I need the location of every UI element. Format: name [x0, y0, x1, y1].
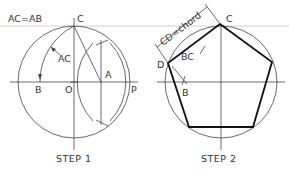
- step2-extension-c: [205, 4, 220, 24]
- step2-label-bc: BC: [181, 51, 194, 62]
- step1-label-a: A: [105, 69, 112, 80]
- step1-label-o: O: [65, 84, 72, 95]
- step1-label-p: P: [131, 84, 137, 95]
- step1-label-c: C: [77, 13, 84, 24]
- step2-label-c: C: [226, 13, 233, 24]
- step1-label-ac: AC: [58, 53, 71, 64]
- pentagon-construction-diagram: AC=AB C AC A B O P STEP 1 CD=chord C BC …: [0, 0, 289, 176]
- step2-panel: CD=chord C BC D B STEP 2: [155, 4, 285, 164]
- step1-tick-bottom: [96, 120, 108, 126]
- step2-caption: STEP 2: [201, 153, 237, 164]
- scan-band: [0, 25, 289, 27]
- step1-label-b: B: [35, 84, 42, 95]
- step1-tick-top: [96, 40, 108, 45]
- step1-caption: STEP 1: [56, 153, 92, 164]
- step2-pentagon: [168, 24, 272, 127]
- step2-label-b: B: [182, 87, 189, 98]
- step1-equation-label: AC=AB: [8, 13, 42, 24]
- step2-label-d: D: [157, 59, 164, 70]
- step2-bc-leader: [200, 46, 205, 54]
- step1-panel: AC=AB C AC A B O P STEP 1: [8, 13, 138, 164]
- step1-arrowhead-b: [38, 74, 42, 80]
